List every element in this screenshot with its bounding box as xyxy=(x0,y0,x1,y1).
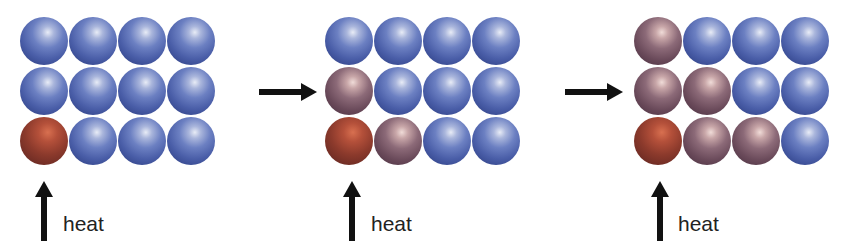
hot-particle-sphere xyxy=(20,117,68,165)
cool-particle-sphere xyxy=(732,17,780,65)
warm-particle-sphere xyxy=(683,67,731,115)
cool-particle-sphere xyxy=(374,67,422,115)
warm-particle-sphere xyxy=(634,67,682,115)
warm-particle-sphere xyxy=(634,17,682,65)
warm-particle-sphere xyxy=(325,67,373,115)
heat-up-arrow-icon xyxy=(35,181,53,241)
cool-particle-sphere xyxy=(374,17,422,65)
cool-particle-sphere xyxy=(423,17,471,65)
cool-particle-sphere xyxy=(69,117,117,165)
cool-particle-sphere xyxy=(118,17,166,65)
cool-particle-sphere xyxy=(20,67,68,115)
cool-particle-sphere xyxy=(69,17,117,65)
heat-up-arrow-icon xyxy=(343,181,361,241)
particle-grid xyxy=(20,17,216,167)
particle-grid xyxy=(634,17,830,167)
cool-particle-sphere xyxy=(20,17,68,65)
cool-particle-sphere xyxy=(423,117,471,165)
cool-particle-sphere xyxy=(118,67,166,115)
cool-particle-sphere xyxy=(472,17,520,65)
cool-particle-sphere xyxy=(167,67,215,115)
right-arrow-icon xyxy=(259,83,317,101)
warm-particle-sphere xyxy=(732,117,780,165)
cool-particle-sphere xyxy=(781,17,829,65)
particle-grid xyxy=(325,17,521,167)
cool-particle-sphere xyxy=(423,67,471,115)
cool-particle-sphere xyxy=(167,17,215,65)
heat-label: heat xyxy=(63,213,104,234)
cool-particle-sphere xyxy=(325,17,373,65)
warm-particle-sphere xyxy=(374,117,422,165)
cool-particle-sphere xyxy=(167,117,215,165)
warm-particle-sphere xyxy=(683,117,731,165)
heat-up-arrow-icon xyxy=(651,181,669,241)
cool-particle-sphere xyxy=(472,117,520,165)
cool-particle-sphere xyxy=(69,67,117,115)
cool-particle-sphere xyxy=(781,117,829,165)
heat-label: heat xyxy=(678,213,719,234)
hot-particle-sphere xyxy=(634,117,682,165)
cool-particle-sphere xyxy=(683,17,731,65)
heat-label: heat xyxy=(371,213,412,234)
cool-particle-sphere xyxy=(781,67,829,115)
cool-particle-sphere xyxy=(472,67,520,115)
cool-particle-sphere xyxy=(118,117,166,165)
hot-particle-sphere xyxy=(325,117,373,165)
cool-particle-sphere xyxy=(732,67,780,115)
right-arrow-icon xyxy=(565,83,623,101)
